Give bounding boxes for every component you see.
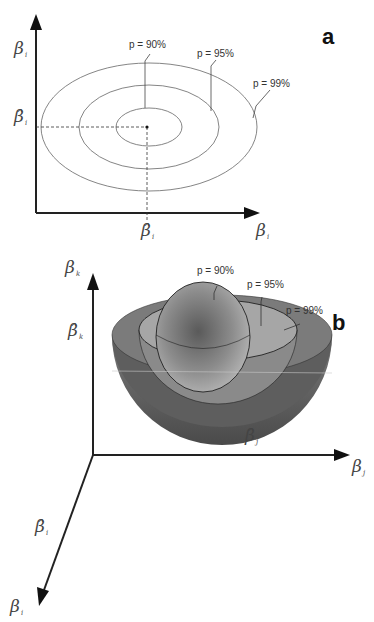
contour-label-95: p = 95%: [197, 48, 234, 59]
panel-a-y-estimate-subscript: i: [25, 119, 27, 127]
contour-label-99: p = 99%: [253, 78, 290, 89]
panel-b-x-estimate-symbol: β̂: [244, 425, 255, 445]
panel-b: p = 90% p = 95% p = 99% b β k β̂ k β̂ j …: [9, 257, 366, 617]
panel-a-label: a: [322, 24, 335, 49]
contour-label-90: p = 90%: [129, 39, 166, 50]
leader-95: [211, 60, 216, 111]
shell-label-95: p = 95%: [247, 279, 284, 290]
panel-b-z-axis-subscript: k: [76, 270, 80, 278]
arrow-right-icon: [244, 207, 260, 219]
confidence-region-figure: p = 90% p = 95% p = 99% a β i β̂ i β̂ i …: [0, 0, 374, 622]
panel-b-z-estimate-symbol: β̂: [67, 320, 78, 340]
panel-b-depth-estimate-subscript: i: [46, 529, 48, 537]
leader-90: [145, 54, 150, 108]
panel-a-y-axis-subscript: i: [25, 51, 27, 59]
contour-95: [79, 85, 219, 169]
shell-label-99: p = 99%: [286, 305, 323, 316]
leader-99: [253, 90, 270, 118]
shell-90-sphere: [156, 282, 250, 392]
arrow-right-icon: [334, 449, 350, 461]
arrow-up-icon: [30, 14, 42, 30]
panel-a: p = 90% p = 95% p = 99% a β i β̂ i β̂ i …: [13, 14, 335, 241]
panel-b-z-axis-symbol: β: [64, 257, 75, 277]
shell-label-90: p = 90%: [197, 265, 234, 276]
panel-a-y-estimate-symbol: β̂: [13, 106, 24, 126]
panel-b-depth-axis-subscript: i: [21, 609, 23, 617]
panel-a-x-estimate-subscript: i: [152, 233, 154, 241]
panel-b-depth-axis: [44, 455, 93, 590]
panel-a-x-axis-subscript: i: [267, 233, 269, 241]
arrow-up-icon: [87, 273, 99, 290]
panel-a-x-axis-symbol: β: [255, 220, 266, 240]
panel-b-label: b: [332, 310, 345, 335]
panel-b-depth-estimate-symbol: β̂: [34, 516, 45, 536]
panel-b-z-estimate-subscript: k: [79, 333, 83, 341]
panel-b-depth-axis-symbol: β: [9, 596, 20, 616]
panel-a-x-estimate-symbol: β̂: [140, 220, 151, 240]
panel-a-y-axis-symbol: β: [13, 38, 24, 58]
arrow-down-left-icon: [37, 587, 49, 606]
estimate-point: [145, 125, 148, 128]
contour-90: [116, 108, 182, 146]
panel-b-x-axis-symbol: β: [351, 456, 362, 476]
